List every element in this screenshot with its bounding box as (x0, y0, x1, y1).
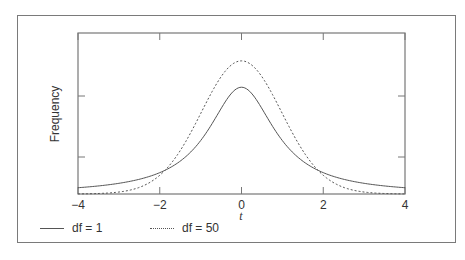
legend-label: df = 1 (72, 221, 102, 235)
axes-box (78, 33, 405, 194)
legend-item-df50: df = 50 (150, 221, 219, 235)
solid-line-swatch-icon (40, 228, 64, 229)
x-tick-label: 0 (238, 198, 245, 212)
x-tick-label: 4 (402, 198, 409, 212)
dotted-line-swatch-icon (150, 228, 174, 229)
y-axis-label: Frequency (48, 86, 62, 143)
x-tick-label: −4 (71, 198, 85, 212)
x-tick-label: 2 (320, 198, 327, 212)
curve-df50 (78, 61, 405, 194)
legend-label: df = 50 (182, 221, 219, 235)
legend-item-df1: df = 1 (40, 221, 102, 235)
x-tick-label: −2 (153, 198, 167, 212)
curve-df1 (78, 87, 405, 187)
